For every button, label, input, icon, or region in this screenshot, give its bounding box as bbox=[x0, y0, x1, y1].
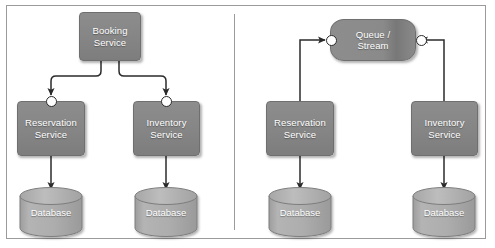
node-booking-service[interactable]: Booking Service bbox=[79, 12, 141, 61]
node-reservation-service[interactable]: Reservation Service bbox=[17, 101, 85, 156]
node-reservation-service-async-line2: Service bbox=[284, 129, 316, 141]
database-cylinder-reservation bbox=[20, 188, 82, 237]
diagram-figure: Booking Service Reservation Service Inve… bbox=[0, 0, 495, 248]
node-queue-stream-line2: Stream bbox=[357, 40, 388, 52]
node-queue-stream[interactable]: Queue / Stream bbox=[330, 19, 416, 61]
node-reservation-service-async-line1: Reservation bbox=[274, 117, 326, 129]
edge-inventory2-to-queue bbox=[421, 40, 444, 104]
node-reservation-service-line1: Reservation bbox=[25, 117, 77, 129]
edge-reservation2-to-queue bbox=[300, 40, 325, 104]
node-inventory-service-async-line1: Inventory bbox=[425, 117, 465, 129]
database-cylinder-inventory bbox=[135, 188, 197, 237]
port-circle-queue-left[interactable] bbox=[326, 35, 337, 46]
port-circle-queue-right[interactable] bbox=[416, 35, 427, 46]
node-booking-service-line2: Service bbox=[94, 37, 126, 49]
database-cylinder-inventory2 bbox=[413, 188, 475, 237]
node-inventory-service-line2: Service bbox=[150, 129, 182, 141]
node-inventory-service[interactable]: Inventory Service bbox=[133, 101, 200, 156]
database-cylinder-reservation2 bbox=[269, 188, 331, 237]
port-circle-inventory[interactable] bbox=[161, 96, 172, 107]
edge-booking-to-inventory bbox=[119, 61, 166, 95]
port-circle-reservation[interactable] bbox=[46, 96, 57, 107]
node-inventory-service-async-line2: Service bbox=[428, 129, 460, 141]
node-reservation-service-async[interactable]: Reservation Service bbox=[266, 101, 334, 156]
node-inventory-service-line1: Inventory bbox=[147, 117, 187, 129]
node-reservation-service-line2: Service bbox=[35, 129, 67, 141]
edge-booking-to-reservation bbox=[51, 61, 101, 95]
node-inventory-service-async[interactable]: Inventory Service bbox=[411, 101, 478, 156]
node-booking-service-line1: Booking bbox=[92, 25, 127, 37]
node-queue-stream-line1: Queue / bbox=[356, 29, 391, 41]
